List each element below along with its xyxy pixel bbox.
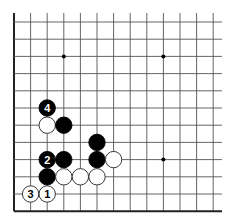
white-stone [39, 117, 55, 133]
move-number: 3 [28, 188, 34, 200]
black-stone [89, 151, 105, 167]
go-board-diagram: 4231 [0, 0, 236, 223]
black-stone [89, 134, 105, 150]
star-point [161, 54, 165, 58]
black-stone [39, 169, 55, 185]
move-number: 2 [44, 154, 50, 166]
white-stone-3: 3 [22, 186, 38, 202]
white-stone [72, 169, 88, 185]
white-stone [56, 169, 72, 185]
move-number: 1 [44, 188, 50, 200]
star-point [161, 158, 165, 162]
white-stone [105, 151, 121, 167]
black-stone [56, 151, 72, 167]
white-stone-1: 1 [39, 186, 55, 202]
stones: 4231 [22, 100, 121, 202]
star-point [62, 54, 66, 58]
black-stone-4: 4 [39, 100, 55, 116]
white-stone [89, 169, 105, 185]
black-stone-2: 2 [39, 151, 55, 167]
move-number: 4 [44, 102, 51, 114]
black-stone [56, 117, 72, 133]
